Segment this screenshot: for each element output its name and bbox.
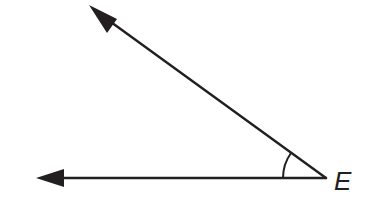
angle-diagram: E [0,0,376,204]
ray-upper-left [89,5,326,178]
ray-upper-left-line [104,17,326,178]
arrowhead-left-icon [36,169,64,187]
arrowhead-upper-left-icon [89,5,117,33]
angle-arc [283,153,291,178]
vertex-label: E [334,166,352,196]
